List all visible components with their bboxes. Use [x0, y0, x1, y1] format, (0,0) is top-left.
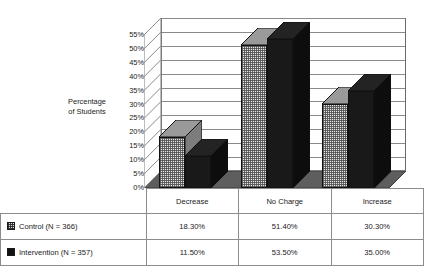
gridline	[162, 18, 405, 19]
y-axis-tick-20pct: 20%	[106, 128, 144, 136]
bar-intervention-increase	[348, 91, 374, 188]
control-swatch-icon	[7, 222, 15, 230]
legend-item-intervention: Intervention (N = 357)	[1, 240, 147, 266]
data-table: Decrease No Charge Increase Control (N =…	[0, 188, 424, 264]
y-axis-tick-30pct: 30%	[106, 101, 144, 109]
table-corner-cell	[1, 189, 147, 214]
value-intervention-decrease: 11.50%	[146, 240, 239, 266]
category-header-1: No Charge	[239, 189, 332, 214]
intervention-swatch-icon	[7, 248, 15, 256]
legend-label-control: Control (N = 366)	[19, 222, 77, 231]
chart-figure: Percentage of Students 0%5%10%15%20%25%3…	[0, 0, 424, 272]
bar-front-face	[185, 156, 211, 188]
y-axis-tick-10pct: 10%	[106, 156, 144, 164]
y-axis-tick-5pct: 5%	[106, 170, 144, 178]
y-axis-tick-15pct: 15%	[106, 142, 144, 150]
bar-front-face	[348, 91, 374, 188]
y-axis-tick-50pct: 50%	[106, 45, 144, 53]
value-intervention-increase: 35.00%	[331, 240, 424, 266]
value-control-no-charge: 51.40%	[239, 214, 332, 240]
value-control-decrease: 18.30%	[146, 214, 239, 240]
category-header-2: Increase	[331, 189, 424, 214]
table-row: Control (N = 366) 18.30% 51.40% 30.30%	[1, 214, 424, 240]
table-row: Intervention (N = 357) 11.50% 53.50% 35.…	[1, 240, 424, 266]
bar-control-increase	[322, 104, 348, 188]
bar-intervention-no-charge	[267, 39, 293, 188]
y-axis-tick-40pct: 40%	[106, 73, 144, 81]
value-intervention-no-charge: 53.50%	[239, 240, 332, 266]
y-axis-tick-35pct: 35%	[106, 87, 144, 95]
bar-intervention-decrease	[185, 156, 211, 188]
plot-area	[144, 18, 406, 188]
legend-item-control: Control (N = 366)	[1, 214, 147, 240]
bar-control-decrease	[159, 137, 185, 188]
table-row-categories: Decrease No Charge Increase	[1, 189, 424, 214]
bar-front-face	[159, 137, 185, 188]
bar-front-face	[322, 104, 348, 188]
y-axis-tick-45pct: 45%	[106, 59, 144, 67]
bar-front-face	[267, 39, 293, 188]
gridline	[162, 32, 405, 33]
y-axis-tick-55pct: 55%	[106, 31, 144, 39]
legend-label-intervention: Intervention (N = 357)	[19, 248, 93, 257]
bar-control-no-charge	[241, 45, 267, 188]
bar-front-face	[241, 45, 267, 188]
value-control-increase: 30.30%	[331, 214, 424, 240]
category-header-0: Decrease	[146, 189, 239, 214]
y-axis-tick-25pct: 25%	[106, 114, 144, 122]
